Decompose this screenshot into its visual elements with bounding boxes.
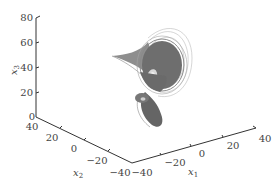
x3-axis: 80 60 40 20 0 x3 [8,12,40,122]
x1-axis: −40 −20 0 20 40 x1 [131,126,271,179]
x2-tick-label: 0 [71,143,77,154]
x1-tick-label: −20 [164,157,185,168]
x2-tick-label: 20 [46,132,59,143]
x3-tick-label: 40 [20,62,33,73]
x1-tick-label: 0 [199,148,205,159]
x2-tick-label: 40 [26,121,39,132]
x3-axis-label: x3 [8,65,21,75]
x2-tick-label: −40 [109,167,130,178]
attractor-3d-plot: 80 60 40 20 0 x3 40 20 0 −20 −40 x2 −40 … [0,0,277,188]
x1-tick-label: 20 [227,140,240,151]
x3-tick-label: 60 [20,37,33,48]
x2-tick-label: −20 [86,155,107,166]
attractor-trajectory [112,28,192,127]
svg-text:x3: x3 [8,65,21,75]
x2-axis: 40 20 0 −20 −40 x2 [26,117,132,180]
x2-axis-label: x2 [73,167,83,180]
x3-tick-label: 20 [20,87,33,98]
x1-axis-label: x1 [188,166,198,179]
x1-tick-label: −40 [131,167,152,178]
x1-tick-label: 40 [259,133,272,144]
x3-tick-label: 80 [20,12,33,23]
